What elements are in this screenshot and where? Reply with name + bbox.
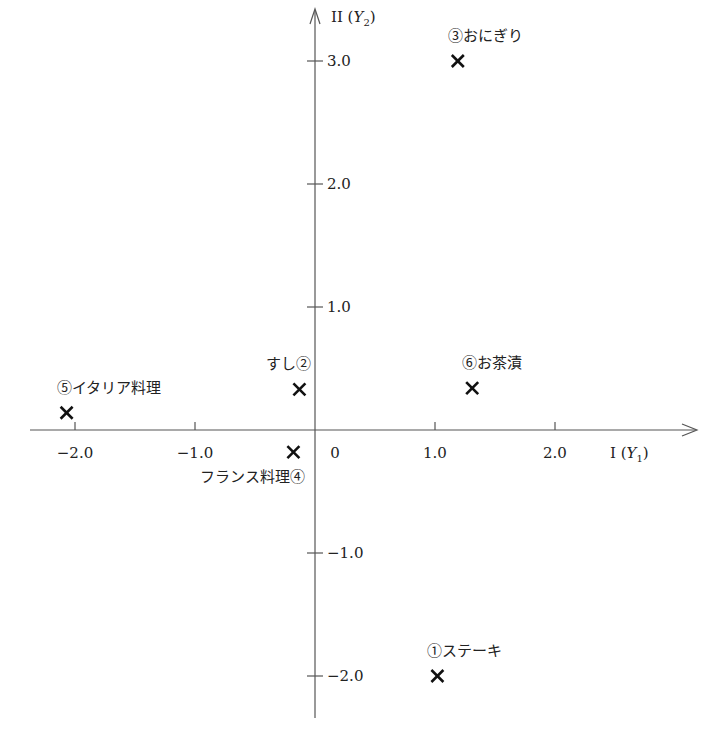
x-tick-label: 1.0: [423, 444, 447, 462]
point-label: ⑥お茶漬: [462, 354, 522, 372]
data-points: ①ステーキすし②③おにぎりフランス料理④⑤イタリア料理⑥お茶漬: [57, 27, 523, 682]
y-tick-label: 1.0: [327, 298, 351, 316]
scatter-chart: I (Y1)II (Y2) −2.0−1.01.02.003.02.01.0−1…: [0, 0, 716, 735]
x-tick-label: −1.0: [177, 444, 213, 462]
point-label: すし②: [266, 355, 311, 373]
x-tick-label: 2.0: [543, 444, 567, 462]
point-label: ①ステーキ: [427, 642, 502, 660]
data-point: すし②: [266, 355, 311, 395]
data-point: ⑥お茶漬: [462, 354, 522, 394]
y-axis-label: II (Y2): [331, 8, 376, 28]
data-point: フランス料理④: [200, 446, 305, 486]
point-label: フランス料理④: [200, 468, 305, 486]
y-tick-label: 3.0: [327, 52, 351, 70]
axes: I (Y1)II (Y2): [30, 8, 697, 718]
x-tick-label: −2.0: [57, 444, 93, 462]
y-tick-label: −1.0: [327, 544, 363, 562]
y-tick-label: 2.0: [327, 175, 351, 193]
x-axis-label: I (Y1): [610, 444, 649, 464]
point-label: ③おにぎり: [448, 27, 523, 45]
y-tick-label: −2.0: [327, 667, 363, 685]
point-label: ⑤イタリア料理: [57, 379, 161, 397]
origin-label: 0: [330, 444, 340, 462]
data-point: ③おにぎり: [448, 27, 523, 67]
data-point: ①ステーキ: [427, 642, 502, 682]
data-point: ⑤イタリア料理: [57, 379, 161, 419]
